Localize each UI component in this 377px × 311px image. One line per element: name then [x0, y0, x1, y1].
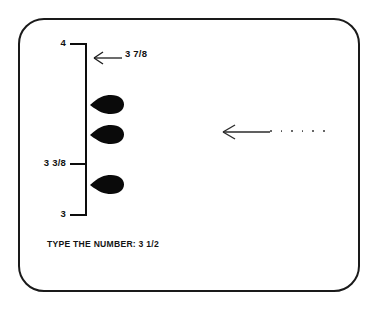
cursor-trail-dots [270, 130, 325, 132]
trail-dot [312, 130, 314, 132]
trail-dot [270, 130, 272, 132]
trail-dot [323, 130, 325, 132]
arrow-left-icon [218, 122, 278, 142]
prompt-type-the-number[interactable]: TYPE THE NUMBER: 3 1/2 [47, 240, 159, 249]
trail-dot [281, 130, 283, 132]
cursor-arrow-with-trail [218, 122, 348, 142]
trail-dot [302, 130, 304, 132]
trail-dot [291, 130, 293, 132]
crt-screen-bezel [18, 18, 360, 292]
